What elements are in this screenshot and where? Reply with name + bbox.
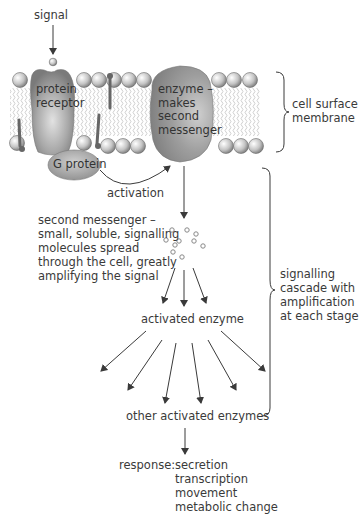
arrows-to-other-enzymes (101, 331, 265, 403)
protein-receptor-label: protein receptor (36, 83, 85, 110)
membrane-label-line1: cell surface (292, 97, 358, 111)
activation-arrow (100, 166, 170, 184)
response-secretion: secretion (175, 458, 278, 472)
enzyme-label: enzyme – makes second messenger (158, 83, 222, 137)
response-movement: movement (175, 486, 278, 500)
second-messenger-line3: molecules spread (38, 241, 179, 255)
second-messenger-line2: small, soluble, signalling (38, 227, 179, 241)
response-transcription: transcription (175, 472, 278, 486)
second-messenger-line4: through the cell, greatly (38, 255, 179, 269)
membrane-label-line2: membrane (292, 111, 358, 125)
enzyme-label-line2: makes (158, 97, 222, 111)
enzyme-label-line1: enzyme – (158, 83, 222, 97)
response-list: secretion transcription movement metabol… (175, 458, 278, 514)
membrane-brace (276, 72, 289, 152)
second-messenger-line5: amplifying the signal (38, 269, 179, 283)
protein-receptor-label-line2: receptor (36, 97, 85, 111)
cascade-line4: at each stage (280, 309, 359, 323)
enzyme-label-line4: messenger (158, 124, 222, 138)
activation-label: activation (107, 186, 164, 200)
cascade-brace (262, 168, 275, 416)
cascade-line2: cascade with (280, 281, 359, 295)
cell-surface-membrane-label: cell surface membrane (292, 97, 358, 125)
response-label: response: (119, 458, 175, 472)
cascade-line1: signalling (280, 267, 359, 281)
activated-enzyme-label: activated enzyme (141, 312, 244, 326)
signalling-cascade-label: signalling cascade with amplification at… (280, 267, 359, 323)
cascade-line3: amplification (280, 295, 359, 309)
g-protein-label: G protein (53, 158, 106, 172)
signal-molecule (49, 58, 57, 66)
signal-label: signal (34, 8, 68, 22)
other-activated-enzymes-label: other activated enzymes (126, 409, 269, 423)
protein-receptor-label-line1: protein (36, 83, 85, 97)
response-metabolic-change: metabolic change (175, 500, 278, 514)
second-messenger-line1: second messenger – (38, 213, 179, 227)
second-messenger-label: second messenger – small, soluble, signa… (38, 213, 179, 283)
enzyme-label-line3: second (158, 110, 222, 124)
